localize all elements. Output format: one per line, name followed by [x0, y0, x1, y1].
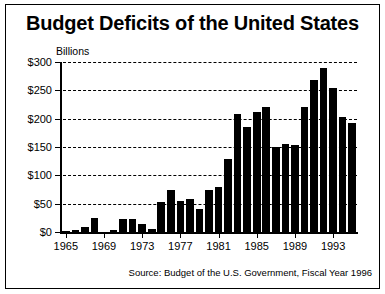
y-axis-tick — [55, 175, 61, 176]
x-axis-tick-label: 1989 — [283, 240, 307, 252]
y-axis-tick — [55, 232, 61, 233]
x-axis-tick — [142, 234, 143, 238]
bar — [81, 227, 89, 232]
bar — [224, 159, 232, 232]
y-axis-tick — [55, 204, 61, 205]
x-axis-tick-label: 1973 — [130, 240, 154, 252]
chart-title: Budget Deficits of the United States — [0, 12, 385, 35]
bar — [339, 117, 347, 232]
bar — [282, 144, 290, 232]
bar — [196, 209, 204, 232]
bar — [253, 112, 261, 232]
y-axis-tick — [55, 119, 61, 120]
bar — [148, 229, 156, 232]
bar — [243, 127, 251, 232]
bar — [157, 202, 165, 232]
x-axis-tick — [66, 234, 67, 238]
y-axis-tick-label: $200 — [4, 113, 52, 125]
x-axis-tick — [219, 234, 220, 238]
x-axis-tick-label: 1969 — [92, 240, 116, 252]
x-axis-tick — [257, 234, 258, 238]
bar — [329, 88, 337, 233]
y-axis-tick — [55, 90, 61, 91]
bar — [310, 80, 318, 232]
x-axis-tick — [180, 234, 181, 238]
bar — [301, 107, 309, 232]
x-axis-tick — [295, 234, 296, 238]
bar — [119, 219, 127, 232]
x-axis-tick-label: 1993 — [321, 240, 345, 252]
x-axis-tick-label: 1965 — [54, 240, 78, 252]
bar — [110, 230, 118, 232]
y-axis-tick — [55, 147, 61, 148]
bar — [320, 68, 328, 232]
bar — [91, 218, 99, 232]
bar — [62, 231, 70, 232]
bar — [234, 114, 242, 232]
bar — [205, 190, 213, 232]
bar — [129, 219, 137, 232]
chart-figure: Budget Deficits of the United States Bil… — [0, 0, 385, 294]
x-axis-tick-label: 1985 — [244, 240, 268, 252]
x-axis-tick-label: 1981 — [206, 240, 230, 252]
y-axis-tick-label: $250 — [4, 84, 52, 96]
y-axis-tick-label: $300 — [4, 56, 52, 68]
y-axis-tick-label: $0 — [4, 226, 52, 238]
y-axis-tick-label: $150 — [4, 141, 52, 153]
bar — [272, 147, 280, 232]
bar — [348, 123, 356, 232]
y-axis-unit-label: Billions — [56, 45, 89, 57]
x-axis-tick — [104, 234, 105, 238]
source-note: Source: Budget of the U.S. Government, F… — [0, 267, 372, 278]
bar — [167, 190, 175, 232]
y-axis-tick-label: $50 — [4, 198, 52, 210]
y-axis-tick — [55, 62, 61, 63]
x-axis-tick-label: 1977 — [168, 240, 192, 252]
x-axis-tick — [333, 234, 334, 238]
gridline — [63, 62, 357, 63]
bar — [138, 224, 146, 233]
bar — [72, 230, 80, 232]
bar — [262, 107, 270, 232]
bar — [215, 187, 223, 232]
bar — [177, 201, 185, 232]
bar — [186, 199, 194, 232]
y-axis-tick-label: $100 — [4, 169, 52, 181]
bar — [291, 145, 299, 232]
